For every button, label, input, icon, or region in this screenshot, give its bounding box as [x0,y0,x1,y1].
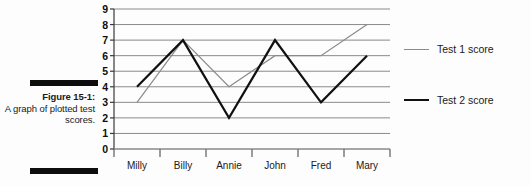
x-axis-tick-label: Fred [311,160,332,171]
x-axis-tick-label: John [264,160,286,171]
legend-entry[interactable]: Test 2 score [404,93,531,107]
series-line [137,40,367,118]
figure-caption-body: A graph of plotted test scores. [0,103,95,126]
chart-legend: Test 1 scoreTest 2 score [404,42,531,144]
y-axis-tick-label: 8 [102,19,108,31]
x-axis-tick-label: Annie [216,160,242,171]
figure-caption-title: Figure 15-1: [0,91,95,103]
figure-caption-text: Figure 15-1: A graph of plotted test sco… [0,91,100,126]
x-axis-tick-label: Mary [356,160,378,171]
y-axis-tick-labels: 9876543210 [102,3,114,155]
x-axis-tick-labels: MillyBillyAnnieJohnFredMary [127,160,378,171]
chart-canvas: 9876543210 MillyBillyAnnieJohnFredMary [96,0,396,186]
legend-label: Test 2 score [437,94,494,106]
caption-rule-top [30,80,98,86]
y-axis-tick-label: 2 [102,112,108,124]
y-axis-tick-label: 7 [102,34,108,46]
figure-container: Figure 15-1: A graph of plotted test sco… [0,0,531,186]
legend-line-swatch [404,99,429,101]
y-axis-tick-label: 9 [102,3,108,15]
line-chart: 9876543210 MillyBillyAnnieJohnFredMary [96,0,396,186]
y-axis-tick-label: 6 [102,50,108,62]
x-axis-tick-label: Billy [174,160,192,171]
x-axis-tick-marks [114,149,390,157]
y-axis-tick-label: 0 [102,143,108,155]
y-axis-tick-label: 1 [102,127,108,139]
legend-label: Test 1 score [437,43,494,55]
figure-caption-block: Figure 15-1: A graph of plotted test sco… [0,80,100,126]
y-axis-tick-label: 4 [102,81,108,93]
y-axis-tick-label: 3 [102,96,108,108]
legend-entry[interactable]: Test 1 score [404,42,531,56]
legend-line-swatch [404,49,429,50]
x-axis-tick-label: Milly [127,160,147,171]
y-axis-tick-label: 5 [102,65,108,77]
caption-rule-bottom [30,168,98,174]
